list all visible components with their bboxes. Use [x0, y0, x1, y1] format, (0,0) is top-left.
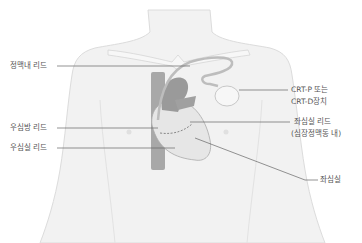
nipple-left: [224, 130, 229, 135]
label-device-line1: CRT-P 또는: [291, 85, 328, 95]
label-lv-lead-line2: (심장정맥동 내): [291, 129, 341, 139]
label-lv-lead-line1: 좌심실 리드: [294, 117, 331, 127]
crt-diagram: 정맥내 리드 우심방 리드 우심실 리드 CRT-P 또는 CRT-D장치 좌심…: [0, 0, 362, 243]
label-device-line2: CRT-D장치: [291, 97, 327, 107]
nipple-right: [127, 130, 132, 135]
label-rv-lead: 우심실 리드: [10, 143, 47, 153]
label-lv: 좌심실: [320, 175, 341, 185]
label-ra-lead: 우심방 리드: [10, 123, 47, 133]
crt-device: [215, 86, 239, 106]
label-svc-lead: 정맥내 리드: [10, 61, 47, 71]
